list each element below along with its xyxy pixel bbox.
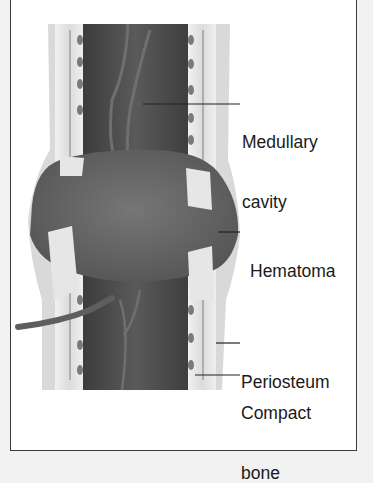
label-line: Medullary	[242, 132, 318, 152]
label-medullary-cavity: Medullary cavity	[242, 92, 318, 232]
hematoma	[30, 150, 238, 300]
label-line: Hematoma	[250, 261, 336, 281]
label-line: Compact	[241, 403, 311, 423]
label-line: cavity	[242, 192, 318, 212]
label-compact-bone: Compact bone	[241, 363, 311, 483]
label-hematoma: Hematoma	[250, 221, 336, 301]
label-line: bone	[241, 463, 311, 483]
